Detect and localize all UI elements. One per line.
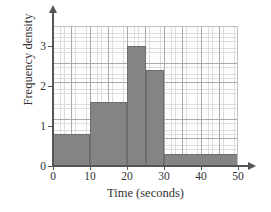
- y-axis-tick: [48, 126, 52, 127]
- y-axis-arrow-icon: [49, 5, 57, 13]
- x-axis-tick-label: 20: [115, 170, 139, 183]
- plot-border: [53, 26, 238, 166]
- y-axis-tick-label: 0: [34, 160, 46, 172]
- y-axis-tick-label: 3: [34, 40, 46, 52]
- y-axis-tick: [48, 46, 52, 47]
- x-axis-arrow-icon: [248, 162, 256, 170]
- histogram-figure: 01020304050 0123 Time (seconds) Frequenc…: [0, 0, 271, 212]
- y-axis-tick-label: 1: [34, 120, 46, 132]
- x-axis-tick-label: 10: [78, 170, 102, 183]
- x-axis-tick-label: 50: [226, 170, 250, 183]
- y-axis-tick-label: 2: [34, 80, 46, 92]
- y-axis-tick: [48, 86, 52, 87]
- x-axis-tick-label: 40: [189, 170, 213, 183]
- x-axis-title: Time (seconds): [53, 186, 238, 201]
- y-axis-line: [52, 12, 54, 167]
- y-axis-tick: [48, 166, 52, 167]
- plot-area: [53, 26, 238, 166]
- x-axis-tick-label: 30: [152, 170, 176, 183]
- y-axis-title: Frequency density: [21, 0, 36, 135]
- x-axis-line: [53, 165, 251, 167]
